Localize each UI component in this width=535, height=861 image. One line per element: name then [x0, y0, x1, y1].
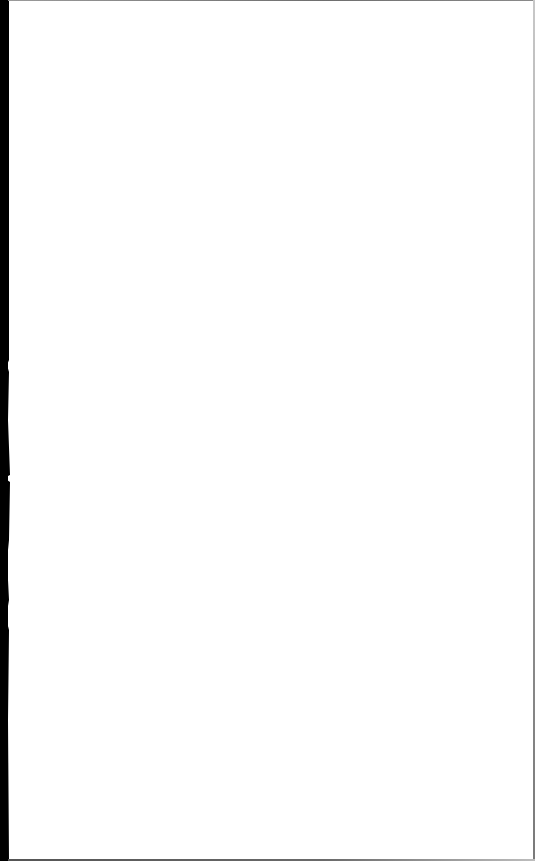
scan-edge-ragged-shape [0, 0, 20, 861]
page-content-area [20, 20, 515, 841]
blank-document-page [0, 0, 535, 861]
scan-edge-left [0, 0, 8, 861]
page-border-top [8, 0, 535, 1]
